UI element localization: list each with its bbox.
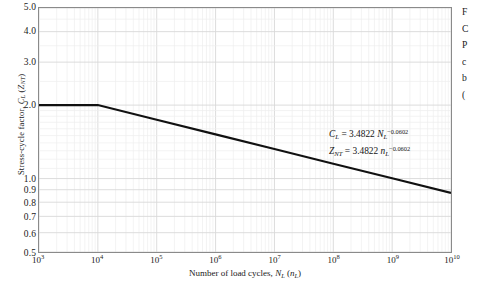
x-tick-base: 10 [150,255,159,265]
side-caption-fragment: F [462,4,479,21]
y-axis-title: Stress-cycle factor, CL (ZNT) [16,24,27,224]
x-tick-label: 106 [195,255,235,266]
equation-znt-eq: = 3.4822 [342,146,380,156]
side-caption-fragment: C [462,21,479,38]
equation-znt-exponent: −0.0602 [389,145,410,152]
x-tick-base: 10 [32,255,41,265]
x-tick-exponent: 6 [218,253,221,260]
x-tick-label: 104 [77,255,117,266]
y-axis-title-prefix: Stress-cycle factor, [16,104,26,175]
x-tick-exponent: 7 [277,253,280,260]
x-tick-label: 105 [136,255,176,266]
y-tick-label: 0.6 [24,229,36,239]
x-tick-label: 103 [18,255,58,266]
y-axis-symbol-znt: Z [16,85,26,90]
side-caption-cropped: FCPcb( [462,4,479,104]
x-tick-label: 108 [314,255,354,266]
x-tick-base: 10 [209,255,218,265]
y-axis-symbol-cl: C [16,98,26,104]
x-axis-title-suffix: ) [298,268,301,278]
x-tick-label: 107 [255,255,295,266]
x-tick-exponent: 5 [159,253,162,260]
side-caption-fragment: c [462,54,479,71]
equation-annotation: CL = 3.4822 NL−0.0602 ZNT = 3.4822 nL−0.… [329,126,410,160]
side-caption-fragment: P [462,37,479,54]
side-caption-fragment: b [462,70,479,87]
x-tick-base: 10 [91,255,100,265]
x-tick-exponent: 9 [396,253,399,260]
y-axis-symbol-cl-sub: L [19,95,26,99]
y-axis-title-suffix: ) [16,74,26,77]
x-tick-exponent: 8 [337,253,340,260]
equation-line-cl: CL = 3.4822 NL−0.0602 [329,126,410,143]
x-tick-exponent: 4 [100,253,103,260]
x-tick-exponent: 3 [41,253,44,260]
x-tick-label: 109 [373,255,413,266]
side-caption-fragment: ( [462,87,479,104]
equation-cl-exponent: −0.0602 [387,128,408,135]
x-axis-title: Number of load cycles, NL (nL) [38,268,452,279]
x-axis-title-prefix: Number of load cycles, [189,268,275,278]
y-axis-symbol-znt-sub: NT [19,77,26,85]
x-tick-base: 10 [328,255,337,265]
equation-cl-eq: = 3.4822 [339,129,377,139]
y-axis-title-mid: ( [16,89,26,94]
equation-line-znt: ZNT = 3.4822 nL−0.0602 [329,143,410,160]
x-tick-label: 1010 [432,255,472,266]
x-tick-exponent: 10 [453,253,460,260]
figure-container: 0.50.60.70.80.91.02.03.04.05.0 103104105… [0,0,479,285]
x-tick-base: 10 [387,255,396,265]
x-tick-base: 10 [444,255,453,265]
y-tick-label: 5.0 [24,2,36,12]
